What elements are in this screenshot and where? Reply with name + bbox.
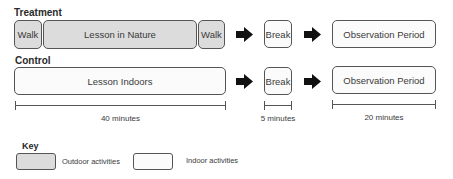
treatment-lesson-in-nature: Lesson in Nature (43, 20, 197, 49)
control-lesson-indoors: Lesson Indoors (14, 67, 226, 95)
key-label-outdoor: Outdoor activities (62, 157, 120, 166)
treatment-walk-start: Walk (14, 20, 42, 49)
arrow-right-icon (236, 27, 253, 42)
treatment-break: Break (264, 20, 292, 48)
key-title: Key (22, 141, 39, 151)
arrow-right-icon (304, 74, 321, 89)
key-swatch-outdoor (16, 153, 56, 170)
timeline-bar-observation (332, 100, 436, 109)
control-label: Control (15, 56, 51, 66)
treatment-label: Treatment (14, 8, 62, 18)
timeline-bar-lesson (15, 101, 226, 110)
timeline-label-break: 5 minutes (258, 114, 298, 123)
control-observation-period: Observation Period (332, 66, 436, 94)
timeline-label-lesson: 40 minutes (15, 114, 226, 123)
treatment-observation-period: Observation Period (332, 20, 436, 48)
arrow-right-icon (304, 27, 321, 42)
timeline-label-observation: 20 minutes (332, 113, 436, 122)
timeline-bar-break (264, 101, 292, 110)
treatment-walk-end: Walk (198, 20, 225, 49)
arrow-right-icon (236, 74, 253, 89)
key-swatch-indoor (133, 153, 173, 170)
control-break: Break (264, 67, 292, 95)
key-label-indoor: Indoor activities (186, 156, 238, 165)
